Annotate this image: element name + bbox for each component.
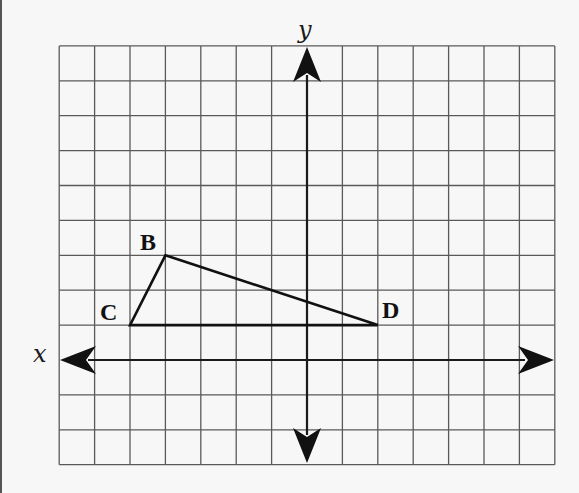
- vertex-label-d: D: [382, 297, 399, 323]
- x-axis-label: x: [33, 340, 47, 368]
- y-axis-label: y: [297, 16, 312, 44]
- page-edge: [0, 0, 2, 493]
- vertex-label-b: B: [140, 229, 156, 255]
- coordinate-plane-figure: x y B C D: [0, 0, 579, 493]
- vertex-label-c: C: [100, 299, 117, 325]
- vertex-labels: B C D: [100, 229, 399, 325]
- coordinate-plane-svg: x y B C D: [0, 0, 579, 493]
- axes: x y: [33, 16, 554, 463]
